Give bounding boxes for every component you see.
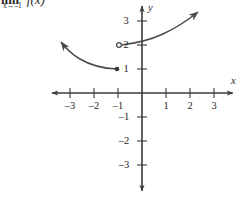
x-tick-label-2: 2 — [183, 101, 197, 112]
x-tick-label-3: 3 — [207, 101, 221, 112]
left-branch-curve — [61, 42, 117, 69]
x-axis-label: x — [231, 76, 236, 87]
x-tick-label-neg3: –3 — [62, 101, 78, 112]
x-tick-label-neg2: –2 — [86, 101, 102, 112]
y-tick-label-3: 3 — [119, 16, 133, 27]
y-tick-label-neg2: –2 — [116, 136, 132, 147]
x-tick-label-neg1: –1 — [110, 101, 126, 112]
y-axis-label: y — [148, 3, 153, 14]
y-tick-label-2: 2 — [119, 40, 133, 51]
y-tick-label-1: 1 — [119, 64, 133, 75]
graph-figure: limx→–1f(x) — [0, 0, 247, 197]
y-tick-label-neg1: –1 — [116, 112, 132, 123]
y-tick-label-neg3: –3 — [116, 160, 132, 171]
x-tick-label-1: 1 — [159, 101, 173, 112]
